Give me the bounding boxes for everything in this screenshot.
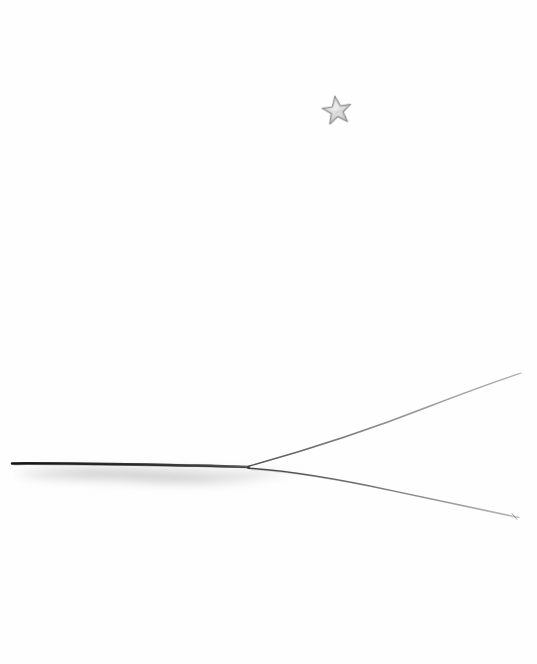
- sketch-canvas: [0, 0, 537, 664]
- paper-background: [0, 0, 537, 664]
- sketch-page: Pencil Sketch: [0, 0, 537, 664]
